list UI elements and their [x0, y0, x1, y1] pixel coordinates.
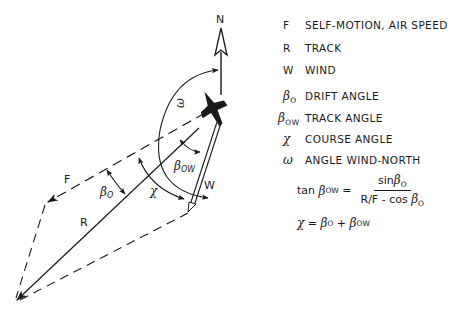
- legend-item-airspeed: F SELF-MOTION, AIR SPEED: [283, 19, 448, 31]
- north-arrow: N: [215, 13, 227, 95]
- wind-label: W: [204, 179, 215, 192]
- legend-text: WIND: [305, 64, 336, 76]
- legend-item-wind-north-angle: ω ANGLE WIND-NORTH: [283, 153, 421, 167]
- airspeed-vector: F: [48, 113, 205, 202]
- beta-ow-angle-arc: βOW: [173, 140, 200, 174]
- omega-label: ω: [173, 98, 187, 108]
- formula-subscript: OW: [357, 219, 370, 228]
- legend-text: ANGLE WIND-NORTH: [305, 154, 421, 166]
- legend-item-wind: W WIND: [283, 64, 336, 76]
- formula-symbol: β: [350, 216, 357, 230]
- formula-subscript: O: [327, 219, 333, 228]
- legend-symbol: R: [283, 42, 305, 54]
- formula-equals: =: [308, 217, 317, 230]
- legend-item-track-angle: βOW TRACK ANGLE: [278, 111, 383, 127]
- legend-symbol: ω: [283, 153, 305, 167]
- legend-text: SELF-MOTION, AIR SPEED: [305, 19, 448, 31]
- legend-symbol: βO: [283, 89, 305, 105]
- legend-symbol: F: [283, 19, 305, 31]
- formula-plus: +: [337, 217, 346, 230]
- beta-ow-label: βOW: [173, 159, 196, 174]
- formula-track-angle: tan βOW = sinβO R/F - cos βO: [297, 173, 428, 208]
- beta-o-angle-arc: βO: [99, 170, 125, 200]
- formula-symbol: χ: [297, 216, 304, 230]
- legend-symbol: χ: [283, 132, 305, 146]
- fraction-numerator: sinβO: [374, 173, 411, 191]
- legend-item-course-angle: χ COURSE ANGLE: [283, 132, 393, 146]
- chi-label: χ: [149, 184, 158, 198]
- formula-subscript: OW: [325, 186, 338, 195]
- fraction-denominator: R/F - cos βO: [357, 191, 429, 208]
- formula-symbol: β: [319, 184, 326, 198]
- legend-item-drift-angle: βO DRIFT ANGLE: [283, 89, 379, 105]
- formula-course-angle: χ = βO + βOW: [297, 216, 370, 230]
- legend-text: TRACK: [305, 42, 342, 54]
- aircraft-icon: [193, 86, 234, 132]
- formula-fraction: sinβO R/F - cos βO: [357, 173, 429, 208]
- airspeed-label: F: [64, 173, 70, 186]
- legend-text: TRACK ANGLE: [305, 112, 383, 124]
- track-label: R: [80, 216, 88, 229]
- legend-symbol: βOW: [278, 111, 305, 127]
- legend-symbol: W: [283, 64, 305, 76]
- formula-equals: =: [342, 184, 351, 197]
- legend-text: DRIFT ANGLE: [305, 90, 379, 102]
- legend-text: COURSE ANGLE: [305, 133, 393, 145]
- formula-fn: tan: [297, 184, 315, 197]
- track-vector: R: [17, 128, 199, 300]
- beta-o-label: βO: [99, 185, 113, 200]
- formula-symbol: β: [321, 216, 328, 230]
- legend-item-track: R TRACK: [283, 42, 342, 54]
- north-label: N: [216, 13, 224, 26]
